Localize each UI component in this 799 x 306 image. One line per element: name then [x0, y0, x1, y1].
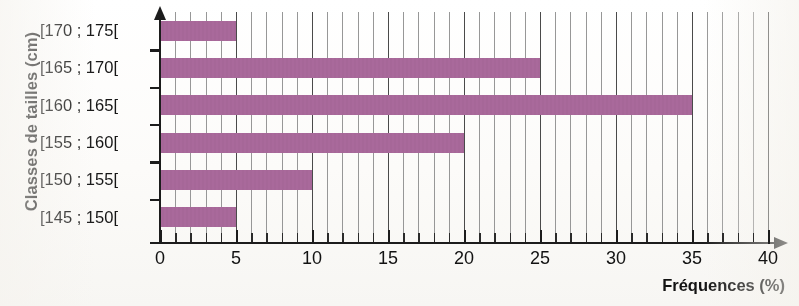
gridline-minor	[570, 12, 571, 236]
y-axis-tick	[150, 161, 160, 163]
gridline-minor	[525, 12, 526, 236]
x-axis-tick-minor	[327, 233, 329, 242]
x-axis-title: Fréquences (%)	[662, 276, 785, 295]
x-axis-tick-major	[768, 230, 770, 244]
x-axis-tick-major	[388, 230, 390, 244]
x-axis-tick-minor	[722, 233, 724, 242]
gridline-major	[464, 12, 465, 236]
x-axis-tick-label: 10	[282, 248, 342, 269]
x-axis-arrow-icon	[774, 237, 788, 249]
y-axis-tick-label: [150 ; 155[	[40, 161, 154, 198]
bar	[160, 95, 692, 115]
x-axis-tick-label: 0	[130, 248, 190, 269]
plot-area	[160, 12, 768, 236]
gridline-major	[388, 12, 389, 236]
gridline-minor	[662, 12, 663, 236]
gridline-minor	[403, 12, 404, 236]
gridline-minor	[221, 12, 222, 236]
gridline-minor	[373, 12, 374, 236]
x-axis-tick-minor	[570, 233, 572, 242]
gridline-minor	[190, 12, 191, 236]
y-axis-tick-label: [145 ; 150[	[40, 199, 154, 236]
x-axis-tick-minor	[586, 233, 588, 242]
gridline-minor	[418, 12, 419, 236]
gridline-minor	[494, 12, 495, 236]
y-axis-tick-label: [155 ; 160[	[40, 124, 154, 161]
x-axis-tick-minor	[707, 233, 709, 242]
x-axis-tick-major	[616, 230, 618, 244]
x-axis-tick-major	[692, 230, 694, 244]
gridline-minor	[358, 12, 359, 236]
x-axis-tick-minor	[479, 233, 481, 242]
gridline-major	[312, 12, 313, 236]
x-axis-tick-minor	[221, 233, 223, 242]
gridline-minor	[297, 12, 298, 236]
gridline-minor	[646, 12, 647, 236]
x-axis-tick-minor	[434, 233, 436, 242]
x-axis-tick-minor	[631, 233, 633, 242]
x-axis-tick-minor	[358, 233, 360, 242]
x-axis-tick-minor	[555, 233, 557, 242]
bar-chart: Classes de tailles (cm) [170 ; 175[[165 …	[0, 0, 799, 306]
gridline-minor	[449, 12, 450, 236]
x-axis-tick-minor	[251, 233, 253, 242]
x-axis-tick-label: 25	[510, 248, 570, 269]
gridline-major	[768, 12, 769, 236]
gridline-major	[540, 12, 541, 236]
gridline-minor	[175, 12, 176, 236]
gridline-minor	[707, 12, 708, 236]
y-axis-title: Classes de tailles (cm)	[22, 0, 41, 247]
y-axis-tick-labels: [170 ; 175[[165 ; 170[[160 ; 165[[155 ; …	[40, 12, 154, 236]
x-axis-line	[150, 242, 776, 244]
gridline-major	[236, 12, 237, 236]
gridline-minor	[282, 12, 283, 236]
x-axis-tick-minor	[525, 233, 527, 242]
bar	[160, 21, 236, 41]
gridline-minor	[601, 12, 602, 236]
x-axis-tick-minor	[601, 233, 603, 242]
x-axis-tick-minor	[282, 233, 284, 242]
bar	[160, 170, 312, 190]
x-axis-tick-label: 20	[434, 248, 494, 269]
gridline-minor	[327, 12, 328, 236]
x-axis-tick-major	[312, 230, 314, 244]
gridline-minor	[753, 12, 754, 236]
x-axis-tick-minor	[494, 233, 496, 242]
y-axis-tick-label: [170 ; 175[	[40, 12, 154, 49]
y-axis-tick	[150, 124, 160, 126]
gridline-minor	[266, 12, 267, 236]
x-axis-tick-minor	[510, 233, 512, 242]
gridline-minor	[510, 12, 511, 236]
gridline-minor	[206, 12, 207, 236]
y-axis-arrow-icon	[154, 6, 166, 20]
x-axis-tick-minor	[297, 233, 299, 242]
y-axis-tick	[150, 87, 160, 89]
gridline-minor	[722, 12, 723, 236]
bar	[160, 207, 236, 227]
x-axis-tick-minor	[677, 233, 679, 242]
y-axis-tick	[150, 199, 160, 201]
x-axis-tick-minor	[449, 233, 451, 242]
x-axis-tick-minor	[646, 233, 648, 242]
x-axis-tick-minor	[403, 233, 405, 242]
bar	[160, 58, 540, 78]
x-axis-tick-minor	[206, 233, 208, 242]
x-axis-tick-minor	[738, 233, 740, 242]
x-axis-tick-minor	[373, 233, 375, 242]
x-axis-tick-minor	[418, 233, 420, 242]
x-axis-tick-major	[540, 230, 542, 244]
x-axis-tick-label: 35	[662, 248, 722, 269]
x-axis-tick-label: 40	[738, 248, 798, 269]
x-axis-tick-minor	[662, 233, 664, 242]
gridline-minor	[631, 12, 632, 236]
y-axis-tick-label: [160 ; 165[	[40, 87, 154, 124]
x-axis-tick-minor	[190, 233, 192, 242]
gridline-major	[692, 12, 693, 236]
x-axis-tick-major	[464, 230, 466, 244]
x-axis-tick-minor	[175, 233, 177, 242]
x-axis-tick-major	[236, 230, 238, 244]
x-axis-tick-major	[160, 230, 162, 244]
x-axis-tick-label: 30	[586, 248, 646, 269]
x-axis-tick-label: 15	[358, 248, 418, 269]
gridline-minor	[251, 12, 252, 236]
